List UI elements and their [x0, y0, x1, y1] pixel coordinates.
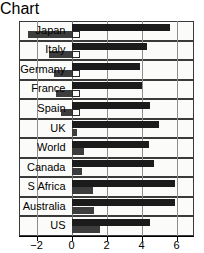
category-label-spain: Spain [2, 103, 68, 114]
x-tick-label: 6 [166, 240, 188, 251]
bar-stub [72, 109, 80, 116]
category-label-japan: Japan [2, 25, 68, 36]
category-label-canada: Canada [2, 162, 68, 173]
bar-australia-s1 [72, 199, 175, 206]
bar-us-s2 [72, 226, 100, 233]
bar-world-s1 [72, 141, 149, 148]
category-label-s-africa: S Africa [2, 181, 68, 192]
category-label-uk: UK [2, 123, 68, 134]
category-label-us: US [2, 220, 68, 231]
bar-uk-s2 [72, 129, 77, 136]
bar-world-s2 [72, 148, 84, 155]
x-tick-label: 2 [96, 240, 118, 251]
category-label-world: World [2, 142, 68, 153]
category-label-australia: Australia [2, 201, 68, 212]
bar-s-africa-s2 [72, 187, 93, 194]
x-tick-label: −2 [26, 240, 48, 251]
bar-canada-s2 [72, 168, 83, 175]
bar-canada-s1 [72, 160, 154, 167]
bar-germany-s1 [72, 63, 140, 70]
bar-japan-s1 [72, 24, 170, 31]
category-label-italy: Italy [2, 44, 68, 55]
bar-chart: JapanItalyGermanyFranceSpainUKWorldCanad… [0, 18, 204, 253]
bar-france-s1 [72, 82, 142, 89]
bar-stub [72, 31, 80, 38]
bar-stub [72, 70, 80, 77]
bar-us-s1 [72, 219, 151, 226]
x-tick-label: 4 [131, 240, 153, 251]
gridline [177, 21, 178, 236]
x-tick-label: 0 [61, 240, 83, 251]
bar-stub [72, 90, 80, 97]
bar-italy-s1 [72, 43, 147, 50]
bar-stub [72, 51, 80, 58]
bar-s-africa-s1 [72, 180, 175, 187]
bar-australia-s2 [72, 207, 95, 214]
bar-spain-s1 [72, 102, 151, 109]
bar-uk-s1 [72, 121, 160, 128]
category-label-germany: Germany [2, 64, 68, 75]
category-label-france: France [2, 83, 68, 94]
